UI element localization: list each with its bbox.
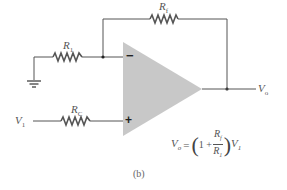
r1-label: R1 — [63, 39, 73, 54]
r1-resistor — [53, 53, 82, 61]
formula-den-sub: 1 — [219, 152, 222, 158]
input-label-name: V — [15, 114, 22, 126]
input-label-sub: 1 — [22, 121, 26, 129]
formula-rhs-name: V — [231, 137, 238, 149]
formula-lhs: Vo — [171, 137, 181, 152]
formula-rhs: V1 — [231, 137, 241, 152]
formula-close-paren: ) — [224, 134, 231, 156]
r1-branch — [34, 53, 123, 80]
rf-resistor — [150, 15, 178, 23]
r1-label-sub: 1 — [70, 46, 74, 54]
output-label-name: V — [258, 82, 265, 94]
input-branch — [33, 117, 123, 125]
output-label-sub: o — [265, 89, 269, 97]
formula-rhs-sub: 1 — [238, 144, 242, 152]
r1-label-name: R — [63, 39, 70, 51]
formula-one-plus: 1 + — [199, 139, 212, 150]
rc-label-name: R — [71, 103, 78, 115]
rc-resistor — [61, 117, 90, 125]
rf-label: Rf — [159, 0, 168, 15]
figure-caption: (b) — [133, 168, 145, 179]
rf-label-name: R — [159, 0, 166, 12]
formula-lhs-name: V — [171, 137, 178, 149]
ground-icon — [27, 81, 41, 87]
formula-num-sub: f — [220, 135, 222, 141]
inverting-input-sign: − — [126, 48, 134, 63]
input-label: V1 — [15, 114, 25, 129]
rc-label: RC — [71, 103, 82, 118]
formula-lhs-sub: o — [178, 144, 182, 152]
junction-dot-inverting — [101, 55, 104, 58]
formula-equals: = — [183, 139, 189, 151]
formula-denominator: R1 — [213, 145, 222, 161]
opamp-triangle — [123, 42, 202, 136]
output-label: Vo — [258, 82, 268, 97]
gain-formula: Vo = ( 1 + Rf R1 ) V1 — [171, 128, 241, 161]
rc-label-sub: C — [78, 110, 83, 118]
formula-open-paren: ( — [191, 134, 198, 156]
formula-numerator: Rf — [213, 128, 223, 145]
noninverting-input-sign: + — [125, 113, 132, 127]
formula-fraction: Rf R1 — [213, 128, 223, 161]
circuit-diagram — [0, 0, 287, 190]
rf-label-sub: f — [166, 7, 168, 15]
